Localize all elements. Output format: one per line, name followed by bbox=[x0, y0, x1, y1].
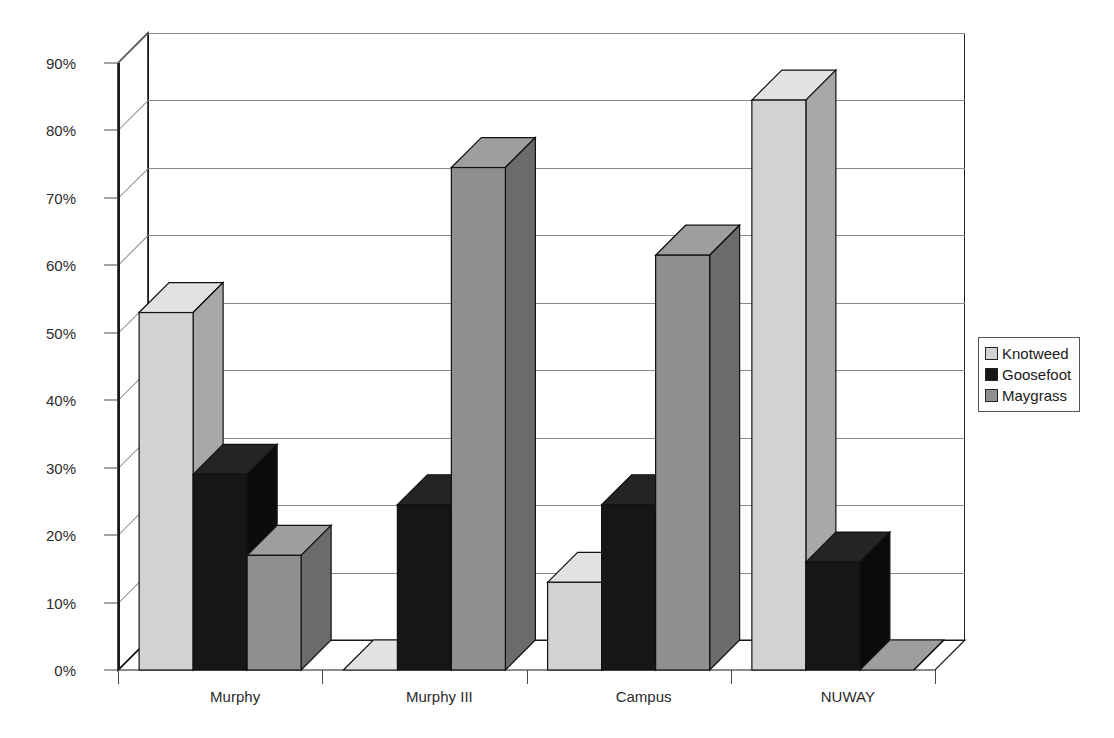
chart-back-wall bbox=[148, 33, 965, 640]
side-wall-tick bbox=[118, 101, 149, 132]
gridline bbox=[148, 303, 965, 304]
legend: KnotweedGoosefootMaygrass bbox=[978, 337, 1080, 412]
x-axis-separator bbox=[935, 670, 936, 684]
legend-label: Knotweed bbox=[1002, 346, 1069, 361]
legend-item-maygrass[interactable]: Maygrass bbox=[985, 385, 1071, 406]
side-wall-tick bbox=[118, 235, 149, 266]
y-axis-tick-mark bbox=[104, 467, 117, 468]
y-axis-tick-mark bbox=[104, 197, 117, 198]
legend-item-goosefoot[interactable]: Goosefoot bbox=[985, 364, 1071, 385]
y-axis-line bbox=[118, 63, 120, 670]
gridline bbox=[148, 100, 965, 101]
side-wall-tick bbox=[118, 168, 149, 199]
legend-label: Goosefoot bbox=[1002, 367, 1071, 382]
x-axis-tick-label-campus: Campus bbox=[616, 688, 672, 705]
gridline bbox=[148, 573, 965, 574]
side-wall-tick bbox=[118, 438, 149, 469]
y-axis-tick-mark bbox=[104, 332, 117, 333]
y-axis-tick-mark bbox=[104, 265, 117, 266]
y-axis-tick-mark bbox=[104, 130, 117, 131]
y-axis-tick-label: 20% bbox=[46, 527, 76, 544]
y-axis-tick-label: 40% bbox=[46, 392, 76, 409]
y-axis-tick-mark bbox=[104, 63, 117, 64]
gridline bbox=[148, 370, 965, 371]
side-wall-tick bbox=[118, 33, 149, 64]
x-axis-separator bbox=[118, 670, 119, 684]
gridline bbox=[148, 640, 965, 641]
x-axis-tick-label-murphy-iii: Murphy III bbox=[406, 688, 473, 705]
side-wall-tick bbox=[118, 573, 149, 604]
gridline bbox=[148, 505, 965, 506]
y-axis-tick-label: 70% bbox=[46, 189, 76, 206]
gridline bbox=[148, 438, 965, 439]
legend-swatch-maygrass bbox=[985, 389, 998, 402]
chart-canvas: 90%80%70%60%50%40%30%20%10%0% MurphyMurp… bbox=[0, 0, 1114, 738]
side-wall-tick bbox=[118, 303, 149, 334]
y-axis-tick-label: 30% bbox=[46, 459, 76, 476]
y-axis-tick-label: 0% bbox=[54, 662, 76, 679]
y-axis-tick-mark bbox=[104, 602, 117, 603]
y-axis-tick-label: 80% bbox=[46, 122, 76, 139]
y-axis-tick-mark bbox=[104, 670, 117, 671]
x-axis-separator bbox=[527, 670, 528, 684]
legend-label: Maygrass bbox=[1002, 388, 1067, 403]
y-axis-tick-label: 90% bbox=[46, 55, 76, 72]
x-axis-tick-label-murphy: Murphy bbox=[210, 688, 260, 705]
side-wall-tick bbox=[118, 505, 149, 536]
y-axis-tick-label: 60% bbox=[46, 257, 76, 274]
y-axis-tick-mark bbox=[104, 535, 117, 536]
x-axis-separator bbox=[731, 670, 732, 684]
legend-swatch-knotweed bbox=[985, 347, 998, 360]
x-axis-separator bbox=[322, 670, 323, 684]
y-axis-tick-label: 10% bbox=[46, 594, 76, 611]
gridline bbox=[148, 235, 965, 236]
x-axis-tick-label-nuway: NUWAY bbox=[821, 688, 875, 705]
legend-item-knotweed[interactable]: Knotweed bbox=[985, 343, 1071, 364]
legend-swatch-goosefoot bbox=[985, 368, 998, 381]
side-wall-tick bbox=[118, 640, 149, 671]
side-wall-tick bbox=[118, 370, 149, 401]
y-axis-tick-mark bbox=[104, 400, 117, 401]
y-axis-tick-label: 50% bbox=[46, 324, 76, 341]
gridline bbox=[148, 168, 965, 169]
gridline bbox=[148, 33, 965, 34]
